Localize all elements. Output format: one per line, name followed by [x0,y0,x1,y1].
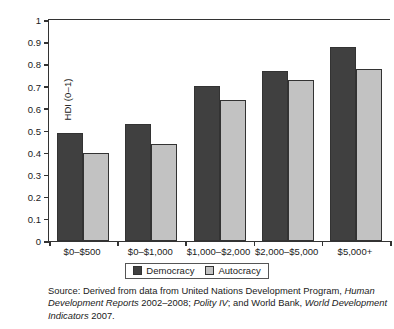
y-tick-label: 0.3 [15,170,44,181]
x-axis-label: $0–$1,000 [116,246,184,257]
bar-autocracy [356,69,382,241]
y-tick-label: 0.1 [15,214,44,225]
source-note-line1: Source: Derived from data from United Na… [48,285,342,296]
y-tick-label: 1 [15,15,44,26]
y-tick-label: 0.7 [15,82,44,93]
legend-item-democracy: Democracy [133,265,194,276]
y-tick-label: 0.8 [15,59,44,70]
legend-box: Democracy Autocracy [125,263,268,279]
y-tick-label: 0.2 [15,192,44,203]
bar-democracy [330,47,356,241]
y-tick: 0.2 [15,188,49,206]
y-tick-label: 0.9 [15,37,44,48]
bar-group [254,20,322,241]
y-tick: 0.1 [15,210,49,228]
bar-democracy [262,71,288,241]
bar-democracy [194,86,220,241]
x-axis-label: $1,000–$2,000 [184,246,252,257]
bar-group [185,20,253,241]
y-tick-label: 0.5 [15,126,44,137]
legend-label-democracy: Democracy [146,265,194,276]
y-tick: 0.5 [15,122,49,140]
y-tick: 0.7 [15,77,49,95]
bar-democracy [57,133,83,241]
chart-figure: HDI (0–1) 10.90.80.70.60.50.40.30.20.10 … [0,0,394,329]
legend-swatch-autocracy-icon [205,266,214,275]
x-axis-label: $2,000–$5,000 [253,246,321,257]
bar-group [117,20,185,241]
bar-group [49,20,117,241]
source-note-years: 2002–2008; [139,297,194,308]
legend: Democracy Autocracy [0,263,394,279]
bar-series-container [49,20,390,241]
source-note-worldbank: ; and World Bank, [228,297,305,308]
legend-label-autocracy: Autocracy [218,265,260,276]
y-tick: 0.3 [15,166,49,184]
bar-democracy [125,124,151,241]
source-note-wdi-year: 2007. [89,310,115,321]
x-axis-label: $5,000+ [321,246,389,257]
y-tick: 0.6 [15,99,49,117]
x-axis-labels: $0–$500$0–$1,000$1,000–$2,000$2,000–$5,0… [48,246,389,257]
bar-autocracy [220,100,246,241]
bar-autocracy [83,153,109,241]
y-tick: 0.4 [15,144,49,162]
y-tick: 0.8 [15,55,49,73]
legend-item-autocracy: Autocracy [205,265,260,276]
x-axis-label: $0–$500 [48,246,116,257]
bar-group [322,20,390,241]
y-tick-label: 0.4 [15,148,44,159]
bar-autocracy [151,144,177,241]
y-tick-label: 0 [15,236,44,247]
legend-swatch-democracy-icon [133,266,142,275]
y-tick: 0 [15,232,49,250]
source-note-italic-polity: Polity IV [193,297,227,308]
y-tick: 0.9 [15,33,49,51]
plot-area: HDI (0–1) 10.90.80.70.60.50.40.30.20.10 [48,19,390,242]
source-note: Source: Derived from data from United Na… [48,285,388,322]
y-tick: 1 [15,11,49,29]
bar-autocracy [288,80,314,241]
x-tick-mark [390,241,392,246]
y-tick-label: 0.6 [15,104,44,115]
source-note-italic-wdi-1: World [305,297,329,308]
